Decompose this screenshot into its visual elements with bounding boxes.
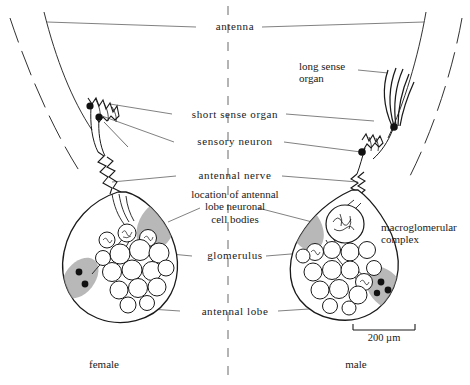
label-antenna: antenna xyxy=(0,20,470,32)
male-pn-soma-3 xyxy=(374,290,380,296)
male-pn-soma-1 xyxy=(378,279,385,286)
label-glomerulus: glomerulus xyxy=(0,249,470,261)
antenna-wall-left-outer xyxy=(10,18,80,172)
glomerulus xyxy=(158,260,174,276)
label-male: male xyxy=(320,358,392,370)
glomerulus xyxy=(110,281,128,299)
label-long-sense-organ: long sense organ xyxy=(299,60,345,85)
label-sensory-neuron: sensory neuron xyxy=(0,135,470,147)
antenna-walls xyxy=(10,12,462,176)
male-sensory-neuron-soma-2 xyxy=(358,148,366,156)
female-pn-soma-2 xyxy=(82,281,89,288)
label-macroglomerular-line2: complex xyxy=(381,233,457,245)
label-cell-bodies: location of antennal lobe neuronal cell … xyxy=(0,188,470,225)
scale-bar xyxy=(353,324,415,330)
glomerulus xyxy=(122,260,142,280)
glomerulus xyxy=(311,281,329,299)
antenna-wall-right-outer xyxy=(410,18,462,176)
antennal-lobe-figure: antenna short sense organ sensory neuron… xyxy=(0,0,470,385)
male-antenna xyxy=(357,68,414,174)
female-pn-soma-1 xyxy=(76,269,83,276)
label-short-sense-organ: short sense organ xyxy=(0,108,470,120)
glomerulus xyxy=(304,263,322,281)
label-cell-bodies-line1: location of antennal xyxy=(0,188,470,200)
label-cell-bodies-line2: lobe neuronal xyxy=(0,200,470,212)
leader-long-sense-organ xyxy=(358,70,388,73)
label-long-sense-organ-line2: organ xyxy=(299,72,345,84)
label-long-sense-organ-line1: long sense xyxy=(299,60,345,72)
glomerulus xyxy=(129,279,148,298)
label-female: female xyxy=(68,358,140,370)
label-antennal-nerve: antennal nerve xyxy=(0,169,470,181)
glomerulus xyxy=(323,261,342,280)
scale-bar-label: 200 µm xyxy=(344,332,424,344)
label-macroglomerular-complex: macroglomerular complex xyxy=(381,221,457,246)
male-sensory-neuron-soma-1 xyxy=(390,123,398,131)
glomerulus xyxy=(341,261,359,279)
glomerulus xyxy=(148,278,166,296)
label-antennal-lobe: antennal lobe xyxy=(0,305,470,317)
male-pn-soma-2 xyxy=(385,287,392,294)
glomerulus xyxy=(330,280,349,299)
glomerulus xyxy=(367,261,382,276)
label-macroglomerular-line1: macroglomerular xyxy=(381,221,457,233)
